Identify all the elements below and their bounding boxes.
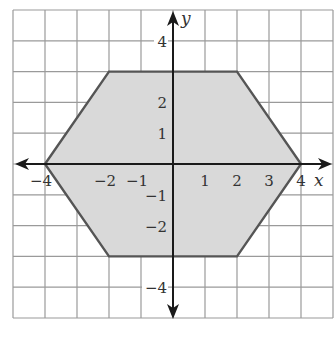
y-axis-label: y — [180, 8, 191, 28]
x-tick-label: 2 — [232, 172, 242, 190]
y-tick-label: 2 — [157, 94, 167, 112]
x-tick-label: −4 — [30, 172, 52, 190]
coordinate-plane: −4−2−11234 421−1−2−4 x y — [0, 0, 336, 340]
x-axis-label: x — [314, 170, 324, 190]
x-tick-label: −2 — [94, 172, 116, 190]
y-tick-label: −4 — [145, 279, 167, 297]
x-tick-label: 3 — [264, 172, 274, 190]
x-tick-label: 1 — [200, 172, 210, 190]
y-tick-label: −1 — [145, 187, 167, 205]
x-tick-label: 4 — [296, 172, 306, 190]
y-tick-label: −2 — [145, 218, 167, 236]
y-tick-label: 4 — [157, 33, 167, 51]
y-tick-label: 1 — [157, 125, 167, 143]
axes — [15, 11, 332, 319]
